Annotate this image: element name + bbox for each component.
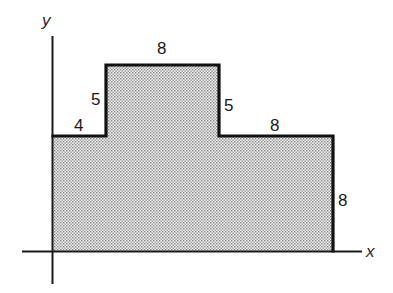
dimension-top-width: 8: [157, 39, 166, 58]
diagram-canvas: y x 4 5 8 5 8 8: [0, 0, 393, 293]
dimension-left-step-rise: 5: [91, 90, 100, 109]
dimension-right-step-drop: 5: [224, 96, 233, 115]
dimension-right-height: 8: [338, 191, 347, 210]
x-axis-label: x: [365, 242, 375, 261]
dimension-right-step-width: 8: [270, 116, 279, 135]
composite-area-figure: y x 4 5 8 5 8 8: [0, 0, 393, 293]
y-axis-label: y: [41, 11, 52, 30]
dimension-left-step-width: 4: [74, 116, 83, 135]
